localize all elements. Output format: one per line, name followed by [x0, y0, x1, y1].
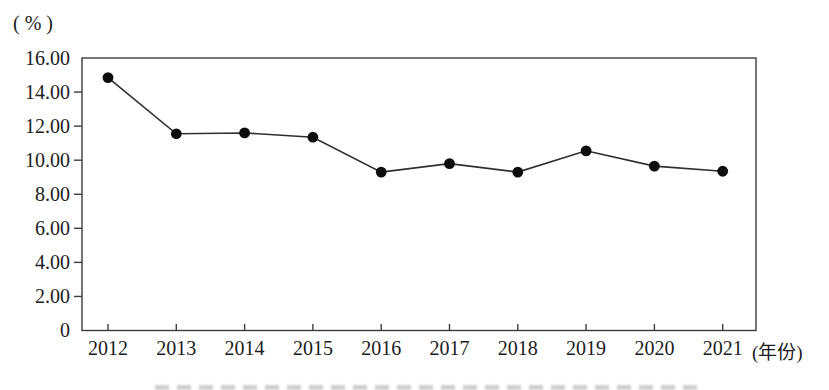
- data-point: [649, 161, 660, 172]
- y-tick-label: 10.00: [25, 149, 70, 171]
- cropped-caption-remnant: [155, 385, 700, 390]
- data-point: [717, 166, 728, 177]
- data-point: [171, 128, 182, 139]
- data-point: [103, 72, 114, 83]
- data-point: [512, 167, 523, 178]
- x-tick-label: 2017: [430, 337, 470, 359]
- line-chart: 02.004.006.008.0010.0012.0014.0016.00201…: [0, 0, 829, 390]
- y-tick-label: 0: [60, 319, 70, 341]
- x-axis-unit-label: (年份): [752, 337, 803, 364]
- y-tick-label: 14.00: [25, 81, 70, 103]
- x-tick-label: 2012: [88, 337, 128, 359]
- x-tick-label: 2019: [566, 337, 606, 359]
- data-line: [108, 78, 723, 173]
- x-tick-label: 2020: [634, 337, 674, 359]
- chart-canvas: 02.004.006.008.0010.0012.0014.0016.00201…: [0, 0, 829, 390]
- y-tick-label: 2.00: [35, 285, 70, 307]
- x-tick-label: 2013: [156, 337, 196, 359]
- y-axis-unit-label: ( % ): [13, 12, 53, 35]
- data-point: [376, 167, 387, 178]
- x-tick-label: 2015: [293, 337, 333, 359]
- plot-border: [82, 58, 756, 331]
- y-tick-label: 6.00: [35, 217, 70, 239]
- y-tick-label: 4.00: [35, 251, 70, 273]
- x-tick-label: 2016: [361, 337, 401, 359]
- x-tick-label: 2018: [498, 337, 538, 359]
- data-point: [308, 132, 319, 143]
- data-point: [239, 128, 250, 139]
- y-tick-label: 16.00: [25, 47, 70, 69]
- y-tick-label: 8.00: [35, 183, 70, 205]
- data-point: [444, 158, 455, 169]
- x-tick-label: 2014: [225, 337, 265, 359]
- data-point: [581, 145, 592, 156]
- y-tick-label: 12.00: [25, 115, 70, 137]
- x-tick-label: 2021: [703, 337, 743, 359]
